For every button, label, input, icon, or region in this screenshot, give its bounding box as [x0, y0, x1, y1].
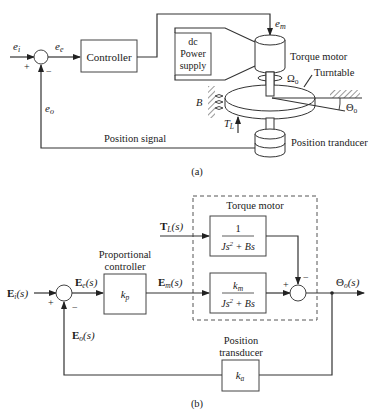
feedback-label: Eo(s)	[72, 329, 95, 343]
torque-motor-cylinder	[255, 35, 285, 73]
position-transducer-drum	[255, 129, 285, 157]
ground-hatch-left	[208, 86, 215, 118]
summing-junction-a	[34, 50, 48, 64]
control-system-figure: ei + − ee Controller em dc Power supply …	[0, 0, 378, 414]
feedback-signal-label: eo	[45, 102, 54, 116]
position-signal-label: Position signal	[104, 133, 166, 144]
input-label: Ei(s)	[7, 287, 28, 301]
plus-sign-b2: +	[283, 279, 289, 290]
figure-a-caption: (a)	[191, 166, 203, 178]
minus-sign-a: −	[46, 66, 52, 77]
theta-label: Θo	[346, 102, 358, 115]
summing-junction-b1	[56, 285, 72, 301]
controller-title-2: controller	[105, 261, 146, 272]
error-signal-label: ee	[55, 40, 64, 54]
power-supply-label-3: supply	[180, 60, 207, 71]
figure-b-block-diagram: Torque motor Ei(s) + − Ee(s) Proportiona…	[7, 196, 364, 410]
error-label: Ee(s)	[75, 276, 98, 290]
power-supply-label-1: dc	[188, 36, 198, 47]
minus-sign-b2: −	[303, 272, 309, 283]
power-supply-label-2: Power	[180, 48, 206, 59]
motor-tf-denominator: Js2 + Bs	[221, 297, 255, 309]
transducer-title-1: Position	[224, 335, 259, 346]
angle-arc	[339, 98, 340, 110]
load-torque-label-b: TL(s)	[160, 220, 183, 234]
damper-icon	[215, 95, 223, 110]
torque-motor-title: Torque motor	[226, 200, 284, 211]
summing-junction-b2	[290, 285, 306, 301]
input-signal-label: ei	[13, 40, 20, 54]
figure-b-caption: (b)	[191, 398, 204, 410]
ground-hatch-right	[330, 90, 360, 98]
turntable-leader-line	[304, 75, 312, 87]
load-output-line	[266, 236, 298, 284]
position-transducer-label: Position tranducer	[291, 137, 368, 148]
figure-a-physical-system: ei + − ee Controller em dc Power supply …	[10, 14, 368, 178]
load-tf-denominator: Js2 + Bs	[221, 240, 255, 252]
load-torque-label: TL	[224, 118, 234, 131]
output-label: Θo(s)	[336, 276, 360, 290]
load-tf-numerator: 1	[235, 223, 240, 234]
plus-sign-b1: +	[48, 297, 54, 308]
motor-input-label: em	[275, 17, 286, 31]
turntable-label: Turntable	[314, 67, 355, 78]
omega-label: Ωo	[287, 73, 299, 86]
controller-title-1: Proportional	[99, 249, 152, 260]
torque-motor-label: Torque motor	[290, 51, 348, 62]
motor-input-label: Em(s)	[158, 276, 183, 290]
transducer-title-2: transducer	[219, 347, 263, 358]
plus-sign-a: +	[24, 61, 30, 72]
feedback-line-right	[259, 293, 332, 375]
turntable-disk	[225, 72, 315, 119]
minus-sign-b1: −	[72, 302, 78, 313]
damping-label: B	[196, 97, 203, 108]
controller-label: Controller	[86, 51, 132, 63]
